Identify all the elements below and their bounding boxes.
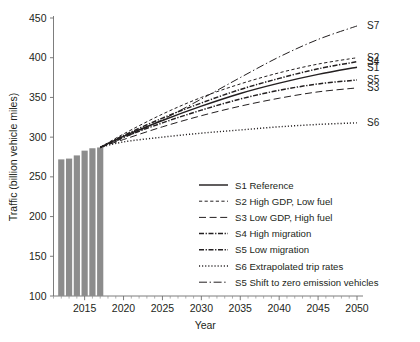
y-tick-label: 350: [29, 91, 47, 103]
bar: [58, 159, 64, 296]
x-tick-label: 2040: [267, 302, 291, 314]
traffic-forecast-chart: 1001502002503003504004502015202020252030…: [0, 0, 420, 342]
y-tick-label: 200: [29, 210, 47, 222]
series-end-label-s6: S6: [367, 117, 380, 128]
bar: [97, 147, 103, 296]
x-tick-label: 2045: [306, 302, 330, 314]
bar: [74, 155, 80, 296]
y-tick-label: 100: [29, 290, 47, 302]
chart-canvas: 1001502002503003504004502015202020252030…: [0, 0, 420, 342]
y-tick-label: 300: [29, 131, 47, 143]
bar: [82, 151, 88, 296]
y-tick-label: 450: [29, 12, 47, 24]
x-axis-title: Year: [195, 319, 217, 331]
series-end-label-s4: S4: [367, 56, 380, 67]
series-end-label-s5: S5: [367, 74, 380, 85]
bar: [89, 148, 95, 296]
y-tick-label: 250: [29, 170, 47, 182]
x-tick-label: 2015: [73, 302, 97, 314]
x-tick-label: 2025: [151, 302, 175, 314]
x-tick-label: 2050: [345, 302, 369, 314]
x-tick-label: 2020: [112, 302, 136, 314]
legend-label-s4: S4 High migration: [235, 228, 311, 239]
legend-label-s6: S6 Extrapolated trip rates: [235, 261, 343, 272]
y-axis-title: Traffic (billion vehicle miles): [7, 93, 19, 221]
legend-label-s3: S3 Low GDP, High fuel: [235, 212, 332, 223]
legend-label-s7: S5 Shift to zero emission vehicles: [235, 277, 379, 288]
legend-label-s2: S2 High GDP, Low fuel: [235, 196, 332, 207]
x-tick-label: 2030: [190, 302, 214, 314]
y-tick-label: 400: [29, 51, 47, 63]
series-end-label-s7: S7: [367, 20, 380, 31]
y-tick-label: 150: [29, 250, 47, 262]
legend-label-s1: S1 Reference: [235, 180, 294, 191]
bar: [66, 159, 72, 296]
legend-label-s5: S5 Low migration: [235, 244, 309, 255]
x-tick-label: 2035: [229, 302, 253, 314]
